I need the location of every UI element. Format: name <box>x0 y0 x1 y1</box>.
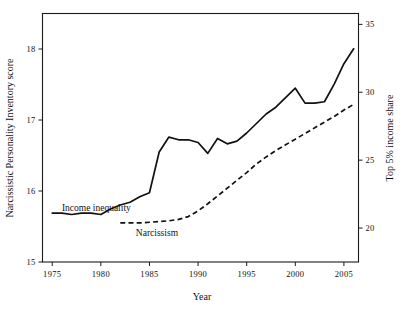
x-axis-tick-label: 1995 <box>238 269 256 279</box>
y-axis-left-tick-label: 18 <box>26 44 35 54</box>
x-axis-title: Year <box>193 291 212 302</box>
chart-container: 15161718 20253035 1975198019851990199520… <box>0 0 404 309</box>
x-axis-tick-label: 1975 <box>43 269 61 279</box>
y-axis-right-tick-label: 20 <box>366 223 375 233</box>
y-axis-right-tick-label: 30 <box>366 87 375 97</box>
x-axis-tick-label: 1990 <box>189 269 207 279</box>
chart-background <box>0 0 404 309</box>
y-axis-left-tick-label: 17 <box>26 115 35 125</box>
series-label-income-inequality: Income inequality <box>62 203 131 213</box>
y-axis-left-tick-label: 16 <box>26 186 35 196</box>
y-axis-right-title: Top 5% income share <box>384 94 395 181</box>
y-axis-left-tick-label: 15 <box>26 257 35 267</box>
x-axis-tick-label: 2000 <box>286 269 304 279</box>
x-axis-tick-label: 1985 <box>140 269 158 279</box>
y-axis-left-title: Narcissistic Personality Inventory score <box>4 58 15 218</box>
line-chart: 15161718 20253035 1975198019851990199520… <box>0 0 404 309</box>
x-axis-tick-label: 1980 <box>92 269 110 279</box>
series-label-narcissism: Narcissism <box>136 228 179 238</box>
y-axis-right-tick-label: 25 <box>366 155 375 165</box>
y-axis-right-tick-label: 35 <box>366 19 375 29</box>
x-axis-tick-label: 2005 <box>335 269 353 279</box>
